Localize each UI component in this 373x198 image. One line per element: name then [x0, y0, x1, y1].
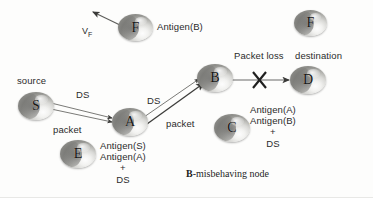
annotation-c-line1: Antigen(A)	[250, 104, 296, 115]
node-d[interactable]: D	[290, 66, 326, 94]
node-b[interactable]: B	[197, 64, 233, 92]
packet-loss-x-icon	[253, 72, 266, 88]
annotation-c-line2: Antigen(B)	[250, 115, 296, 126]
annotation-e-line2: Antigen(A)	[100, 151, 146, 162]
label-packet-loss: Packet loss	[234, 50, 284, 61]
vf-label: VF	[82, 26, 92, 38]
annotation-e-block: Antigen(S) Antigen(A) + DS	[100, 140, 146, 185]
edge-s-to-a-packet	[51, 109, 112, 122]
annotation-c-line4: DS	[250, 138, 296, 149]
caption-bold-prefix: B	[186, 168, 193, 179]
node-s[interactable]: S	[18, 92, 54, 120]
node-e[interactable]: E	[60, 140, 96, 168]
annotation-c-block: Antigen(A) Antigen(B) + DS	[250, 104, 296, 149]
label-packet-s-to-a: packet	[53, 124, 82, 135]
label-ds-a-to-b: DS	[147, 95, 160, 106]
label-destination: destination	[295, 50, 342, 61]
annotation-e-line3: +	[100, 162, 146, 173]
label-source: source	[17, 75, 46, 86]
node-c[interactable]: C	[214, 114, 250, 142]
node-f-right[interactable]: F	[294, 10, 327, 36]
node-a[interactable]: A	[112, 108, 148, 136]
label-antigen-b: Antigen(B)	[157, 21, 203, 32]
label-packet-a-to-b: packet	[166, 118, 195, 129]
caption-rest: -misbehaving node	[193, 168, 269, 179]
annotation-e-line4: DS	[100, 174, 146, 185]
label-ds-s-to-a: DS	[76, 89, 89, 100]
diagram-caption: B-misbehaving node	[186, 168, 269, 179]
annotation-c-line3: +	[250, 126, 296, 137]
edge-s-to-a-ds	[51, 103, 112, 118]
annotation-e-line1: Antigen(S)	[100, 140, 146, 151]
node-f-top[interactable]: F	[118, 14, 153, 41]
diagram-canvas: VF F F S A B D C E Antigen(B) source DS …	[0, 0, 373, 198]
